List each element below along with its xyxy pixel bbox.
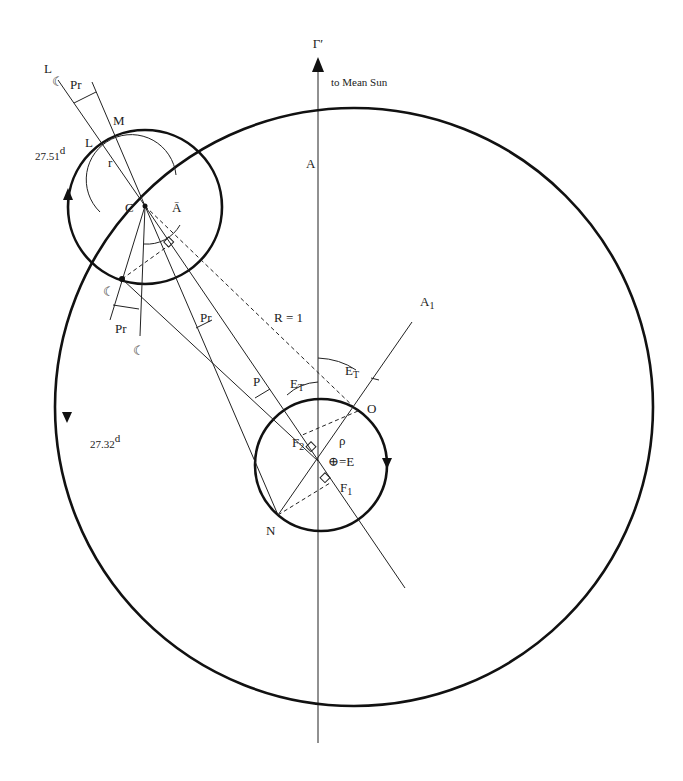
label-moon-mean-l: L	[44, 61, 52, 76]
direction-label: to Mean Sun	[331, 76, 388, 88]
label-a: A	[306, 156, 316, 171]
label-r: r	[108, 155, 113, 170]
moon-bar-top-icon: ☾	[52, 74, 64, 89]
moon-point	[119, 276, 125, 282]
earth-circle-arrow-icon	[382, 458, 392, 469]
moon-bar-bottom-icon: ☾	[133, 343, 145, 358]
label-a1: A1	[420, 294, 434, 311]
center-c-point	[143, 204, 148, 209]
label-pr-top: Pr	[70, 77, 82, 92]
label-f1: F1	[340, 480, 352, 497]
label-et-right: ET	[345, 363, 359, 380]
axis-label: Γ′	[313, 36, 324, 51]
label-et-left: ET	[290, 376, 304, 393]
label-l: L	[85, 135, 93, 150]
label-earth: ⊕=E	[328, 454, 354, 469]
epicycle-period: 27.51d	[35, 144, 66, 162]
label-r-equals-1: R = 1	[274, 310, 303, 325]
label-p: P	[253, 374, 260, 389]
label-pr-bottom: Pr	[115, 321, 127, 336]
deferent-period: 27.32d	[90, 432, 121, 450]
label-c: C	[125, 200, 134, 215]
arrow-up-icon	[312, 57, 324, 72]
label-pr-mid: Pr	[200, 310, 212, 325]
moon-point-icon: ☾	[103, 284, 115, 299]
label-o: O	[367, 401, 376, 416]
label-n: N	[266, 523, 276, 538]
label-m: M	[113, 113, 125, 128]
label-rho: ρ	[339, 433, 346, 448]
epicycle-diagram: Γ′ to Mean Sun A L ☾ Pr M L r C Ā 27.51d…	[0, 0, 683, 781]
epicycle-arrow-icon	[63, 188, 73, 200]
deferent-arrow-icon	[62, 412, 72, 423]
label-a-bar: Ā	[172, 200, 182, 215]
